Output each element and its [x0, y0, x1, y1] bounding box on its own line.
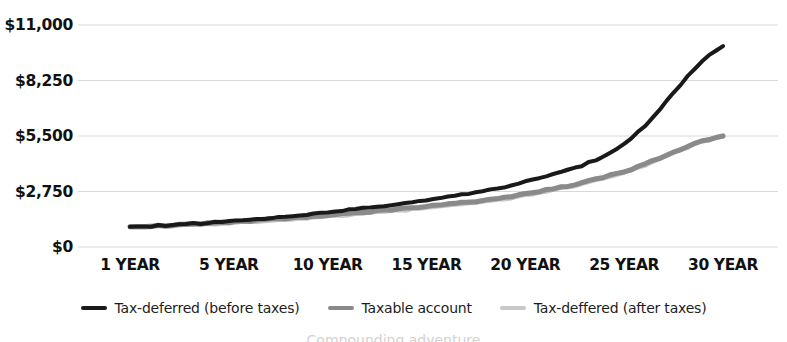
x-axis-tick-label: 20 YEAR	[490, 256, 560, 274]
growth-comparison-chart: $11,000 $8,250 $5,500 $2,750 $0 1 YEAR 5…	[0, 0, 787, 342]
y-axis-tick-label: $5,500	[0, 127, 73, 145]
y-axis-tick-label: $0	[0, 238, 73, 256]
y-axis-tick-label: $11,000	[0, 16, 73, 34]
legend-item-label: Tax-deffered (after taxes)	[534, 300, 707, 316]
series-line-texture	[130, 136, 723, 227]
legend-item-label: Tax-deferred (before taxes)	[115, 300, 300, 316]
chart-canvas	[0, 0, 787, 260]
legend-item-tax-deferred-before-taxes: Tax-deferred (before taxes)	[81, 300, 300, 316]
clipped-footer-label: Compounding adventure	[0, 333, 787, 342]
legend-item-taxable-account: Taxable account	[328, 300, 472, 316]
series-line	[130, 136, 723, 227]
series-line	[130, 136, 723, 227]
clipped-footer-text: Compounding adventure	[0, 333, 787, 342]
legend-swatch-icon	[328, 306, 354, 310]
legend-swatch-icon	[81, 306, 107, 310]
x-axis-tick-label: 5 YEAR	[199, 256, 259, 274]
legend-item-tax-deferred-after-taxes: Tax-deffered (after taxes)	[500, 300, 707, 316]
y-axis-tick-label: $2,750	[0, 183, 73, 201]
x-axis-tick-label: 10 YEAR	[293, 256, 363, 274]
legend-item-label: Taxable account	[362, 300, 472, 316]
legend-swatch-icon	[500, 306, 526, 310]
x-axis-tick-label: 1 YEAR	[100, 256, 160, 274]
x-axis: 1 YEAR 5 YEAR 10 YEAR 15 YEAR 20 YEAR 25…	[0, 256, 787, 282]
y-axis-tick-label: $8,250	[0, 72, 73, 90]
x-axis-tick-label: 30 YEAR	[688, 256, 758, 274]
x-axis-tick-label: 15 YEAR	[392, 256, 462, 274]
series-line-texture	[130, 136, 723, 227]
plot-area	[0, 0, 787, 260]
x-axis-tick-label: 25 YEAR	[589, 256, 659, 274]
chart-legend: Tax-deferred (before taxes) Taxable acco…	[0, 296, 787, 320]
